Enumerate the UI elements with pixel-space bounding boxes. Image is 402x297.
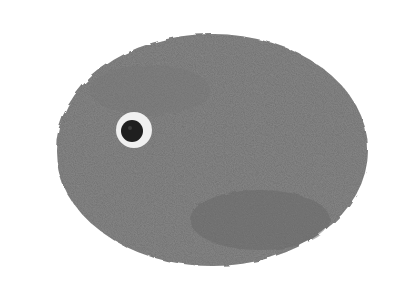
pebble-creature-illustration (0, 0, 402, 297)
eye-icon (116, 112, 152, 148)
scene (0, 0, 402, 297)
body-shape (56, 34, 368, 266)
